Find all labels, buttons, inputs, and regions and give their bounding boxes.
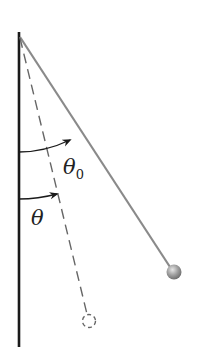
theta0-subscript: 0 <box>76 167 84 182</box>
theta0-label: θ0 <box>63 155 84 179</box>
dashed-bob <box>83 315 96 328</box>
theta-symbol: θ <box>31 206 44 230</box>
theta-label: θ <box>31 206 44 230</box>
theta-arc-arrow <box>19 194 57 199</box>
pendulum-diagram <box>0 0 208 352</box>
theta0-arc-arrow <box>19 140 70 152</box>
pendulum-bob <box>167 265 182 280</box>
pendulum-string <box>20 37 170 267</box>
theta0-symbol: θ <box>63 155 76 179</box>
